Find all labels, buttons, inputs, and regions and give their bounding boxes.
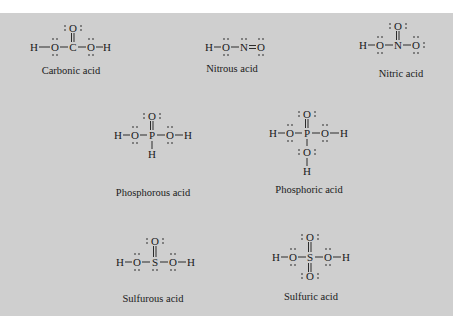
atom-h: H xyxy=(359,39,367,51)
label-nitric-acid: Nitric acid xyxy=(379,68,424,79)
molecule-sulfurous-acid: H O S O O H Sulfurous acid xyxy=(116,235,195,304)
atom-o: O xyxy=(133,256,141,268)
lewis-structures-figure: H O C O O H Carbonic acid H O N O Nitrou… xyxy=(0,0,453,326)
atom-h: H xyxy=(303,165,311,177)
atom-o: O xyxy=(131,129,139,141)
atom-s: S xyxy=(152,256,158,268)
atom-h: H xyxy=(342,251,350,263)
atom-h: H xyxy=(187,256,195,268)
atom-o: O xyxy=(324,251,332,263)
atom-o: O xyxy=(87,41,95,53)
atom-h: H xyxy=(116,256,124,268)
label-phosphoric-acid: Phosphoric acid xyxy=(275,184,343,195)
atom-h: H xyxy=(272,251,280,263)
atom-o: O xyxy=(169,256,177,268)
atom-o: O xyxy=(306,231,314,243)
atom-o: O xyxy=(321,127,329,139)
atom-n: N xyxy=(240,41,248,53)
molecule-nitric-acid: H O N O O Nitric acid xyxy=(359,20,425,79)
atom-o: O xyxy=(51,41,59,53)
molecule-phosphorous-acid: H O P O H O H Phosphorous acid xyxy=(114,110,192,198)
atom-o: O xyxy=(222,41,230,53)
atom-h: H xyxy=(184,129,192,141)
molecule-carbonic-acid: H O C O O H Carbonic acid xyxy=(30,22,111,76)
atom-o: O xyxy=(303,146,311,158)
molecule-nitrous-acid: H O N O Nitrous acid xyxy=(205,38,265,74)
atom-n: N xyxy=(394,39,402,51)
molecule-phosphoric-acid: H O P O O H O H Phosphoric acid xyxy=(269,108,348,195)
atom-o: O xyxy=(148,110,156,122)
molecule-sulfuric-acid: H O S O O O H Sulfuric acid xyxy=(272,231,350,302)
atom-h: H xyxy=(340,127,348,139)
atom-o: O xyxy=(166,129,174,141)
label-carbonic-acid: Carbonic acid xyxy=(42,65,101,76)
atom-h: H xyxy=(205,41,213,53)
label-nitrous-acid: Nitrous acid xyxy=(206,63,258,74)
atom-o: O xyxy=(69,22,77,34)
label-phosphorous-acid: Phosphorous acid xyxy=(116,187,191,198)
atom-s: S xyxy=(307,251,313,263)
atom-o: O xyxy=(151,235,159,247)
label-sulfurous-acid: Sulfurous acid xyxy=(123,293,185,304)
atom-o: O xyxy=(286,127,294,139)
atom-o: O xyxy=(303,108,311,120)
atom-o: O xyxy=(257,41,265,53)
atom-p: P xyxy=(149,129,155,141)
atom-p: P xyxy=(304,127,310,139)
atom-o: O xyxy=(412,39,420,51)
atom-h: H xyxy=(114,129,122,141)
atom-h: H xyxy=(30,41,38,53)
atom-o: O xyxy=(376,39,384,51)
atom-h: H xyxy=(148,148,156,160)
atom-h: H xyxy=(103,41,111,53)
atom-o: O xyxy=(394,20,402,32)
atom-h: H xyxy=(269,127,277,139)
atom-o: O xyxy=(289,251,297,263)
label-sulfuric-acid: Sulfuric acid xyxy=(284,291,339,302)
atom-c: C xyxy=(69,41,76,53)
atom-o: O xyxy=(306,270,314,282)
